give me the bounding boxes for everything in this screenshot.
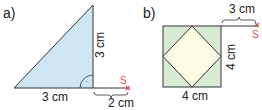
diagram-canvas: a) · S 2 cm 3 cm 3 cm b) S: [0, 0, 262, 110]
bottom-label-b: 4 cm: [182, 89, 208, 103]
side-label-b: 4 cm: [224, 44, 238, 70]
extension-label-a: 2 cm: [108, 96, 134, 110]
point-s-label-b: S: [252, 29, 259, 40]
height-label-a: 3 cm: [93, 32, 107, 58]
figure-b: b) S 3 cm 4 cm 4 cm: [143, 2, 259, 103]
point-s-label-a: S: [120, 75, 127, 86]
figure-b-label: b): [143, 5, 155, 21]
right-angle-dot: ·: [85, 77, 88, 86]
base-label-a: 3 cm: [42, 90, 68, 104]
figure-a-label: a): [3, 5, 15, 21]
figure-a: a) · S 2 cm 3 cm 3 cm: [3, 5, 134, 110]
right-triangle: [14, 5, 93, 88]
brace-extension-b: [222, 17, 256, 23]
extension-label-b: 3 cm: [229, 2, 255, 16]
